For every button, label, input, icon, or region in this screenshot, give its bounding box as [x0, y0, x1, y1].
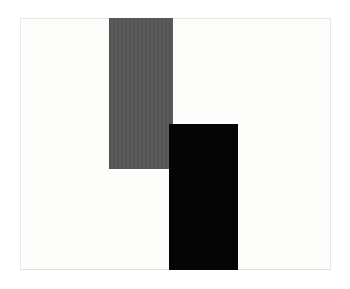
gray-rectangle: [109, 18, 173, 169]
black-rectangle: [169, 124, 238, 270]
